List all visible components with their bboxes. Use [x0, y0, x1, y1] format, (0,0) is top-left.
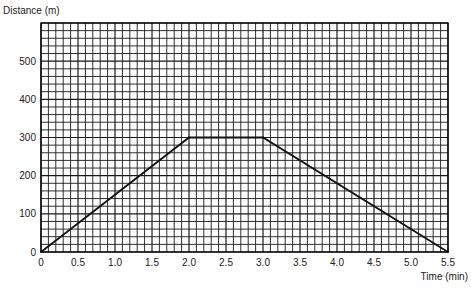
x-tick-label: 0.5	[71, 257, 85, 268]
series-line-distance	[41, 138, 448, 253]
data-point	[40, 251, 42, 253]
x-tick-label: 0	[38, 257, 44, 268]
x-tick-label: 4.5	[367, 257, 381, 268]
x-tick-label: 5.5	[441, 257, 455, 268]
series-layer	[40, 137, 449, 253]
y-tick-label: 200	[19, 170, 36, 181]
x-tick-label: 3.5	[293, 257, 307, 268]
x-tick-label: 2.0	[182, 257, 196, 268]
x-tick-label: 2.5	[219, 257, 233, 268]
data-point	[447, 251, 449, 253]
y-tick-label: 0	[30, 247, 36, 258]
y-tick-label: 100	[19, 208, 36, 219]
x-tick-label: 1.5	[145, 257, 159, 268]
distance-time-chart: 00.51.01.52.02.53.03.54.04.55.05.5 01002…	[0, 0, 471, 297]
x-axis-ticks: 00.51.01.52.02.53.03.54.04.55.05.5	[38, 257, 455, 268]
data-point	[262, 137, 264, 139]
x-tick-label: 4.0	[330, 257, 344, 268]
x-axis-label: Time (min)	[421, 271, 468, 282]
data-point	[188, 137, 190, 139]
y-tick-label: 400	[19, 94, 36, 105]
y-tick-label: 500	[19, 56, 36, 67]
x-tick-label: 5.0	[404, 257, 418, 268]
x-tick-label: 3.0	[256, 257, 270, 268]
x-tick-label: 1.0	[108, 257, 122, 268]
y-axis-ticks: 0100200300400500	[19, 56, 36, 258]
y-tick-label: 300	[19, 132, 36, 143]
y-axis-label: Distance (m)	[3, 5, 60, 16]
